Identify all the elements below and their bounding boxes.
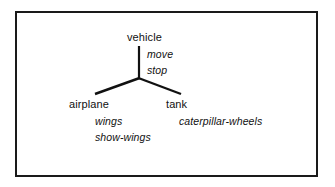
member-tank-caterpillar-wheels: caterpillar-wheels [179, 115, 262, 127]
class-node-vehicle: vehicle [127, 31, 162, 43]
class-node-airplane: airplane [69, 98, 109, 110]
class-node-tank: tank [166, 98, 187, 110]
figure-border-frame [15, 11, 318, 177]
member-airplane-wings: wings [95, 115, 122, 127]
member-vehicle-move: move [147, 48, 173, 60]
figure-canvas: vehicle move stop airplane wings show-wi… [0, 0, 335, 187]
member-vehicle-stop: stop [147, 64, 167, 76]
member-airplane-show-wings: show-wings [95, 131, 151, 143]
